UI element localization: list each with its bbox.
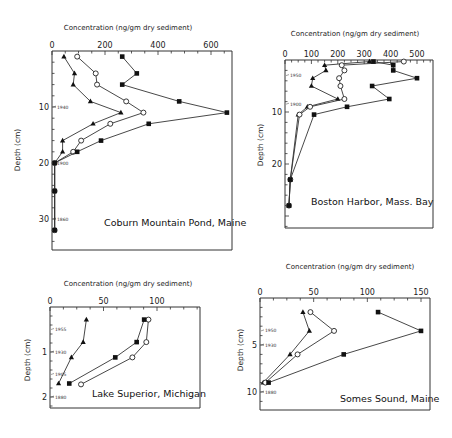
circle-marker bbox=[308, 104, 313, 109]
circle-marker bbox=[93, 71, 98, 76]
y-tick-label: 2 bbox=[42, 393, 47, 402]
square-marker bbox=[134, 340, 139, 345]
x-tick-label: 100 bbox=[360, 288, 375, 297]
square-marker bbox=[312, 112, 317, 117]
x-tick-label: 500 bbox=[409, 50, 424, 59]
square-marker bbox=[391, 63, 396, 68]
y-tick-label: 20 bbox=[39, 159, 49, 168]
site-label: Lake Superior, Michigan bbox=[92, 388, 206, 399]
site-label: Somes Sound, Maine bbox=[340, 393, 440, 404]
square-marker bbox=[415, 76, 420, 81]
triangle-marker bbox=[310, 75, 315, 80]
square-marker bbox=[266, 380, 271, 385]
circle-marker bbox=[338, 84, 343, 89]
x-tick-label: 400 bbox=[383, 50, 398, 59]
series-triangle bbox=[52, 54, 123, 232]
y-axis-title: Depth (cm) bbox=[23, 339, 32, 382]
square-marker bbox=[376, 310, 381, 315]
square-marker bbox=[99, 138, 104, 143]
square-marker bbox=[52, 161, 57, 166]
square-marker bbox=[113, 355, 118, 360]
date-marker: 1950 bbox=[290, 73, 302, 78]
square-marker bbox=[52, 228, 57, 233]
date-marker: 1940 bbox=[57, 105, 69, 110]
circle-marker bbox=[124, 99, 129, 104]
circle-marker bbox=[295, 352, 300, 357]
x-axis-title: Concentration (ng/gm dry sediment) bbox=[286, 263, 415, 271]
x-tick-label: 200 bbox=[330, 50, 345, 59]
circle-marker bbox=[130, 355, 135, 360]
series-square bbox=[287, 59, 420, 208]
circle-marker bbox=[95, 82, 100, 87]
x-tick-label: 0 bbox=[282, 50, 287, 59]
square-marker bbox=[370, 84, 375, 89]
square-marker bbox=[341, 352, 346, 357]
date-marker: 1930 bbox=[265, 343, 277, 348]
triangle-marker bbox=[81, 339, 86, 344]
circle-marker bbox=[297, 112, 302, 117]
y-tick-label: 1 bbox=[42, 348, 47, 357]
triangle-marker bbox=[61, 54, 66, 59]
figure: Concentration (ng/gm dry sediment)020040… bbox=[0, 0, 452, 438]
circle-marker bbox=[308, 310, 313, 315]
circle-marker bbox=[141, 110, 146, 115]
circle-marker bbox=[79, 382, 84, 387]
series-square bbox=[266, 310, 423, 385]
square-marker bbox=[177, 99, 182, 104]
x-tick-label: 0 bbox=[257, 288, 262, 297]
x-tick-label: 100 bbox=[149, 297, 164, 306]
y-axis-title: Depth (cm) bbox=[13, 129, 22, 172]
y-tick-label: 20 bbox=[272, 160, 282, 169]
square-marker bbox=[75, 150, 80, 155]
triangle-marker bbox=[60, 149, 65, 154]
circle-marker bbox=[332, 328, 337, 333]
square-marker bbox=[345, 105, 350, 110]
square-marker bbox=[120, 54, 125, 59]
square-marker bbox=[225, 110, 230, 115]
square-marker bbox=[387, 97, 392, 102]
date-marker: 1880 bbox=[55, 395, 67, 400]
date-marker: 1860 bbox=[57, 217, 69, 222]
date-marker: 1950 bbox=[265, 328, 277, 333]
triangle-marker bbox=[84, 317, 89, 322]
series-square bbox=[67, 317, 147, 386]
y-tick-label: 10 bbox=[272, 108, 282, 117]
circle-marker bbox=[339, 63, 344, 68]
x-axis-title: Concentration (ng/gm dry sediment) bbox=[64, 280, 193, 288]
series-circle bbox=[286, 59, 406, 208]
x-tick-label: 0 bbox=[49, 41, 54, 50]
y-axis-title: Depth (cm) bbox=[256, 124, 265, 167]
x-tick-label: 600 bbox=[203, 41, 218, 50]
square-marker bbox=[67, 381, 72, 386]
circle-marker bbox=[75, 54, 80, 59]
triangle-marker bbox=[56, 381, 61, 386]
square-marker bbox=[142, 317, 147, 322]
square-marker bbox=[120, 82, 125, 87]
triangle-marker bbox=[307, 328, 312, 333]
site-label: Boston Harbor, Mass. Bay bbox=[311, 196, 434, 207]
x-tick-label: 50 bbox=[98, 297, 108, 306]
series-circle bbox=[52, 54, 146, 233]
circle-marker bbox=[146, 317, 151, 322]
square-marker bbox=[135, 71, 140, 76]
x-tick-label: 200 bbox=[97, 41, 112, 50]
y-tick-label: 10 bbox=[39, 103, 49, 112]
square-marker bbox=[371, 59, 376, 64]
x-tick-label: 150 bbox=[413, 288, 428, 297]
triangle-marker bbox=[300, 309, 305, 314]
square-marker bbox=[391, 68, 396, 73]
x-tick-label: 300 bbox=[357, 50, 372, 59]
square-marker bbox=[288, 177, 293, 182]
y-tick-label: 5 bbox=[252, 341, 257, 350]
circle-marker bbox=[108, 121, 113, 126]
panel-coburn: Concentration (ng/gm dry sediment)020040… bbox=[13, 24, 247, 250]
triangle-marker bbox=[323, 68, 328, 73]
x-tick-label: 100 bbox=[304, 50, 319, 59]
y-tick-label: 10 bbox=[247, 388, 257, 397]
circle-marker bbox=[401, 59, 406, 64]
date-marker: 1900 bbox=[290, 102, 302, 107]
square-marker bbox=[52, 189, 57, 194]
x-tick-label: 400 bbox=[150, 41, 165, 50]
site-label: Coburn Mountain Pond, Maine bbox=[104, 217, 247, 228]
square-marker bbox=[146, 122, 151, 127]
